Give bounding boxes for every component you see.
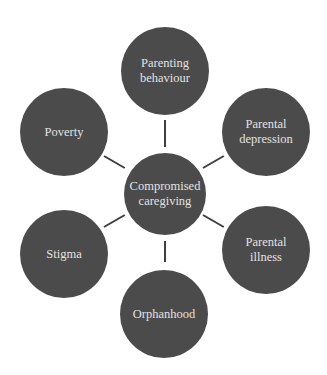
node-label: Stigma: [46, 247, 81, 262]
node-label: Orphanhood: [133, 307, 196, 322]
center-node-compromised-caregiving: Compromised caregiving: [124, 153, 206, 235]
node-poverty: Poverty: [20, 88, 108, 176]
center-node-label: Compromised caregiving: [130, 179, 201, 209]
connector-stigma: [104, 214, 126, 228]
connector-parental-depression: [203, 155, 225, 169]
connector-parental-illness: [203, 214, 225, 228]
connector-parenting-behaviour: [164, 120, 166, 147]
node-label: Parenting behaviour: [140, 56, 190, 86]
node-parenting-behaviour: Parenting behaviour: [121, 27, 209, 115]
node-parental-depression: Parental depression: [222, 88, 310, 176]
connector-orphanhood: [164, 241, 166, 262]
connector-poverty: [104, 155, 126, 169]
node-stigma: Stigma: [20, 210, 108, 298]
compromised-caregiving-diagram: Compromised caregiving Parenting behavio…: [0, 0, 327, 375]
node-parental-illness: Parental illness: [222, 206, 310, 294]
node-label: Parental depression: [239, 117, 292, 147]
node-label: Parental illness: [246, 235, 287, 265]
node-orphanhood: Orphanhood: [120, 270, 208, 358]
node-label: Poverty: [45, 125, 84, 140]
